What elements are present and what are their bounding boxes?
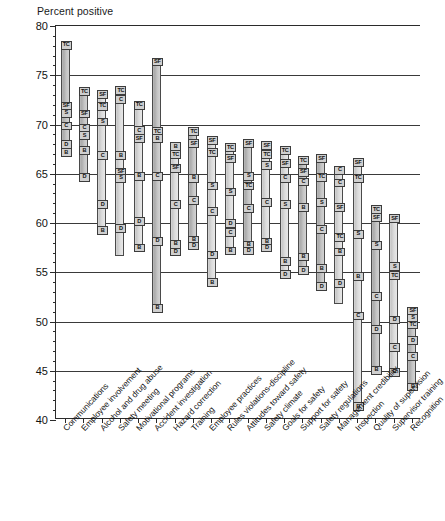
y-tick-label: 75 [36,69,48,81]
x-tick [102,418,103,423]
y-tick-label: 45 [36,365,48,377]
bar-marker: SF [207,136,218,145]
x-tick [357,418,358,423]
x-tick [138,418,139,423]
y-tick-minor [53,292,57,293]
x-tick [229,418,230,423]
y-tick-major [50,322,56,323]
bar-marker: SF [280,159,291,168]
bar[interactable]: TCCBSFSD [115,86,124,256]
bar[interactable]: BTCSFCBD [170,142,179,249]
bar-marker: C [298,178,309,187]
bar-marker: SF [170,164,181,173]
bar-marker: SF [334,203,345,212]
bar-marker: S [261,161,272,170]
bar-marker: TC [353,174,364,183]
bar[interactable]: TCSFCBBD [298,156,307,270]
y-tick-minor [53,95,57,96]
bar-marker: B [115,151,126,160]
bar-marker: TC [316,173,327,182]
bar[interactable]: TCSFSCDB [61,41,70,149]
bar[interactable]: SFTCSCBD [261,141,270,245]
bar-marker: B [316,264,327,273]
bar[interactable]: SFSTCDCB [389,214,398,372]
bar-marker: D [407,336,418,345]
bar-marker: TC [298,156,309,165]
bar[interactable]: CCSFTCBD [334,166,343,304]
x-tick [83,418,84,423]
y-tick-minor [53,312,57,313]
y-tick-minor [53,253,57,254]
x-tick [65,418,66,423]
y-tick-label: 50 [36,316,48,328]
bar-marker: D [243,247,254,256]
bar[interactable]: TCSFCSBD [79,87,88,176]
bar-marker: B [389,368,400,377]
bar[interactable]: TCSFBCBD [188,127,197,243]
x-tick [412,418,413,423]
bar-marker: B [407,383,418,392]
bar-marker: TC [207,148,218,157]
bar-marker: C [207,207,218,216]
x-tick [175,418,176,423]
y-tick-minor [53,65,57,66]
bar-marker: D [152,237,163,246]
y-tick-label: 80 [36,20,48,32]
bar-marker: D [334,279,345,288]
bar[interactable]: SFTCSBCB [353,158,362,404]
bar-marker: C [115,95,126,104]
bar-marker: S [389,262,400,271]
y-tick-minor [53,381,57,382]
y-tick-label: 65 [36,168,48,180]
bar-marker: D [298,266,309,275]
bar[interactable]: SFTCSCDB [97,90,106,228]
bar[interactable]: TCSFCSBD [280,146,289,276]
y-tick-minor [53,154,57,155]
bar[interactable]: SFTCSCDB [207,136,216,280]
bar-marker: B [79,146,90,155]
gridline [56,272,420,273]
bar-marker: C [170,200,181,209]
bar-marker: C [188,196,199,205]
bar-marker: S [61,109,72,118]
bar-marker: C [334,179,345,188]
y-tick-major [50,75,56,76]
x-tick [211,418,212,423]
bar[interactable]: TCSFSCDB [371,205,380,368]
bar-marker: B [134,244,145,253]
y-tick-major [50,420,56,421]
bar-marker: D [389,316,400,325]
bar-marker: B [152,134,163,143]
bar[interactable]: TCSFSDCB [225,143,234,248]
y-tick-minor [53,203,57,204]
bar[interactable]: SFTCSCBD [316,154,325,287]
y-tick-minor [53,361,57,362]
bar-marker: B [97,226,108,235]
bar-marker: TC [188,127,199,136]
bar-marker: C [243,204,254,213]
bar-marker: D [316,282,327,291]
bar[interactable]: TCCSFBDB [134,101,143,246]
bar-marker: SF [371,213,382,222]
bar-marker: C [61,122,72,131]
bar-marker: D [207,251,218,260]
y-tick-minor [53,390,57,391]
gridline [56,322,420,323]
y-tick-major [50,272,56,273]
y-tick-minor [53,105,57,106]
bar-marker: TC [407,321,418,330]
bar-marker: B [188,174,199,183]
y-tick-minor [53,164,57,165]
bar-marker: SF [152,58,163,67]
y-tick-minor [53,262,57,263]
bar-marker: TC [261,150,272,159]
y-tick-minor [53,144,57,145]
x-tick [120,418,121,423]
bar[interactable]: SFTCBCDB [152,58,161,306]
bar[interactable]: SFSTCCBD [243,139,252,249]
bar[interactable]: SFSTCDCB [407,307,416,387]
bar-marker: B [280,257,291,266]
x-tick [321,418,322,423]
y-tick-major [50,223,56,224]
y-tick-minor [53,85,57,86]
